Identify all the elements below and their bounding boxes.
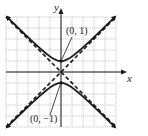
leader-line-top	[62, 37, 72, 59]
y-axis-arrow-icon	[59, 8, 64, 14]
vertex-top-label: (0, 1)	[66, 26, 88, 36]
x-axis-label: x	[127, 73, 132, 84]
leader-line-bottom	[50, 85, 60, 115]
hyperbola-plot	[0, 0, 148, 136]
vertex-point	[59, 81, 63, 85]
vertex-point	[59, 59, 63, 63]
y-axis-label: y	[54, 2, 59, 13]
vertex-bottom-label: (0, −1)	[30, 114, 57, 124]
